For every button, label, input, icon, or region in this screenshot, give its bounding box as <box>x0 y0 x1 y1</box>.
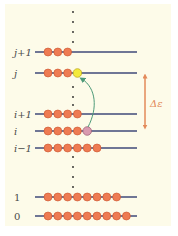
particle <box>73 110 81 118</box>
level-label: i−1 <box>14 143 32 154</box>
energy-level-i: i <box>14 126 137 137</box>
particle <box>54 144 62 152</box>
particle <box>83 144 91 152</box>
particle <box>113 193 121 201</box>
particle <box>44 110 52 118</box>
particle <box>64 110 72 118</box>
level-label: j <box>12 68 17 79</box>
particle <box>64 127 72 135</box>
particle <box>64 144 72 152</box>
particle <box>54 48 62 56</box>
particle <box>44 193 52 201</box>
excited-particle-origin <box>83 127 92 136</box>
energy-level-diagram: j+1ji+1ii−110 Δε <box>0 0 178 236</box>
particle <box>64 69 72 77</box>
particle <box>54 193 62 201</box>
particle <box>44 127 52 135</box>
particle <box>44 144 52 152</box>
particle <box>73 212 81 220</box>
level-label: i <box>14 126 17 137</box>
particle <box>122 212 130 220</box>
particle <box>44 48 52 56</box>
energy-level-j: j <box>12 68 137 79</box>
level-label: i+1 <box>14 109 32 120</box>
ellipsis-dots-top <box>72 11 74 43</box>
particle <box>73 193 81 201</box>
ellipsis-dots-bottom <box>72 156 74 188</box>
particle <box>83 212 91 220</box>
excited-particle-destination <box>73 69 82 78</box>
excitation-arrow <box>82 79 94 127</box>
particle <box>93 144 101 152</box>
particle <box>103 212 111 220</box>
level-label: j+1 <box>12 47 32 58</box>
energy-level-1: 1 <box>14 192 137 203</box>
particle <box>54 69 62 77</box>
particle <box>64 212 72 220</box>
particle <box>93 193 101 201</box>
particle <box>44 69 52 77</box>
particle <box>83 193 91 201</box>
particle <box>54 127 62 135</box>
energy-level-i-1: i+1 <box>14 109 137 120</box>
ellipsis-dots-middle <box>72 86 74 106</box>
energy-level-0: 0 <box>14 211 137 222</box>
particle <box>73 144 81 152</box>
particle <box>64 193 72 201</box>
particle <box>64 48 72 56</box>
particle <box>54 212 62 220</box>
particle <box>54 110 62 118</box>
energy-level-j-1: j+1 <box>12 47 137 58</box>
energy-gap-label: Δε <box>149 98 163 109</box>
particle <box>44 212 52 220</box>
level-label: 1 <box>14 192 20 203</box>
level-label: 0 <box>14 211 20 222</box>
particle <box>113 212 121 220</box>
particle <box>73 127 81 135</box>
energy-level-i-1: i−1 <box>14 143 137 154</box>
particle <box>103 193 111 201</box>
particle <box>93 212 101 220</box>
